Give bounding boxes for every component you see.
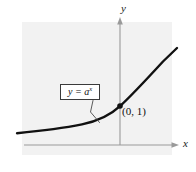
- curve-equation-callout: y = ax: [60, 84, 100, 100]
- curve-equation-text: y = ax: [68, 87, 92, 97]
- curve-equation-exponent: x: [89, 85, 92, 92]
- y-axis-label: y: [121, 3, 126, 14]
- x-axis-label: x: [183, 138, 188, 149]
- point-coordinate-label: (0, 1): [122, 106, 146, 117]
- exponential-function-figure: y x y = ax (0, 1): [0, 0, 196, 172]
- curve-equation-base: y = a: [68, 86, 89, 97]
- x-axis-arrowhead: [172, 142, 180, 148]
- y-axis-arrowhead: [117, 17, 123, 25]
